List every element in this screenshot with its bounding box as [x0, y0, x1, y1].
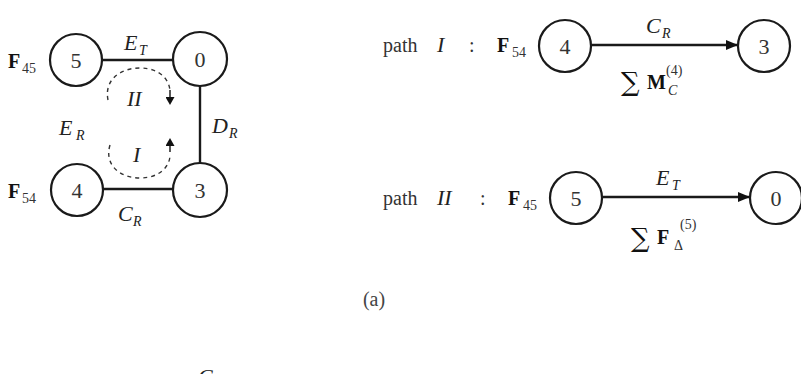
- node-3-label: 3: [195, 178, 206, 203]
- svg-text:D: D: [211, 113, 228, 138]
- node-5: 5: [50, 34, 102, 86]
- svg-text:∑: ∑: [631, 223, 650, 253]
- svg-text:C: C: [668, 83, 678, 98]
- path-i-separator: :: [469, 34, 475, 56]
- path-i-sum-expression: ∑ M C (4): [621, 63, 683, 98]
- loop-graph: 5 0 4 3 F 45 F 54 E T D R: [8, 30, 238, 229]
- path-i-from-node: 4: [539, 20, 591, 72]
- svg-text:5: 5: [571, 186, 582, 211]
- svg-text:R: R: [75, 128, 85, 143]
- node-4-label: 4: [72, 178, 83, 203]
- node-5-label: 5: [71, 48, 82, 73]
- path-i-force: F: [497, 34, 509, 56]
- svg-text:C: C: [646, 13, 661, 38]
- svg-text:3: 3: [759, 34, 770, 59]
- path-ii-force-sub: 45: [523, 198, 537, 213]
- path-i-to-node: 3: [738, 20, 790, 72]
- svg-text:R: R: [661, 26, 671, 41]
- path-i: path I : F 54 4 3 C R ∑ M C (4): [383, 13, 790, 98]
- svg-text:R: R: [228, 126, 238, 141]
- path-ii-name: II: [436, 185, 453, 210]
- loop-i-label: I: [132, 142, 142, 167]
- partial-next-label: C: [198, 364, 213, 374]
- force-label-f54: F 54: [8, 180, 36, 206]
- figure-caption: (a): [363, 288, 385, 311]
- svg-text:54: 54: [22, 191, 36, 206]
- svg-text:M: M: [647, 71, 666, 93]
- loop-ii-label: II: [126, 86, 143, 111]
- edge-label-dr: D R: [211, 113, 238, 141]
- svg-text:4: 4: [560, 34, 571, 59]
- force-label-f45: F 45: [8, 50, 36, 76]
- svg-text:F: F: [657, 226, 669, 248]
- path-ii-edge-label: E T: [655, 165, 681, 193]
- kinematic-loop-figure: 5 0 4 3 F 45 F 54 E T D R: [0, 0, 801, 374]
- svg-text:F: F: [8, 180, 20, 202]
- svg-text:R: R: [132, 214, 142, 229]
- path-ii: path II : F 45 5 0 E T ∑ F Δ (5): [383, 165, 801, 253]
- path-ii-to-node: 0: [750, 172, 801, 224]
- svg-text:(4): (4): [666, 63, 683, 79]
- svg-text:E: E: [123, 30, 138, 55]
- edge-label-et: E T: [123, 30, 148, 58]
- svg-text:∑: ∑: [621, 67, 640, 97]
- path-i-force-sub: 54: [512, 45, 526, 60]
- edge-label-er: E R: [58, 115, 85, 143]
- path-i-edge-label: C R: [646, 13, 671, 41]
- svg-text:45: 45: [22, 61, 36, 76]
- edge-label-cr: C R: [118, 201, 142, 229]
- svg-text:E: E: [655, 165, 670, 190]
- svg-text:0: 0: [771, 186, 782, 211]
- path-ii-sum-expression: ∑ F Δ (5): [631, 217, 697, 253]
- svg-text:T: T: [139, 43, 148, 58]
- svg-text:Δ: Δ: [674, 238, 683, 253]
- path-ii-force: F: [508, 187, 520, 209]
- svg-text:E: E: [58, 115, 73, 140]
- path-ii-prefix: path: [383, 187, 417, 210]
- node-0: 0: [173, 32, 227, 86]
- svg-text:(5): (5): [680, 217, 697, 233]
- node-0-label: 0: [195, 47, 206, 72]
- svg-text:T: T: [672, 178, 681, 193]
- svg-text:C: C: [118, 201, 133, 226]
- svg-text:F: F: [8, 50, 20, 72]
- path-ii-from-node: 5: [550, 172, 602, 224]
- path-i-prefix: path: [383, 34, 417, 57]
- node-3: 3: [173, 163, 227, 217]
- node-4: 4: [51, 164, 103, 216]
- path-ii-separator: :: [480, 187, 486, 209]
- path-i-name: I: [436, 32, 446, 57]
